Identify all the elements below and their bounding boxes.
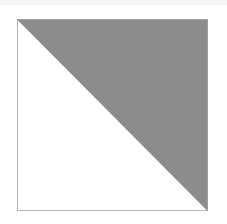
square-diagram [17,19,208,211]
diagonal-split-square [17,19,208,211]
top-band [0,0,227,5]
